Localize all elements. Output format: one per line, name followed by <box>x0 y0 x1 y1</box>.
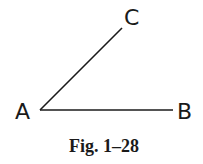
angle-diagram: A B C Fig. 1–28 <box>0 0 203 164</box>
figure-caption: Fig. 1–28 <box>69 136 139 156</box>
ray-ac <box>40 28 122 110</box>
point-label-b: B <box>177 99 192 124</box>
point-label-c: C <box>124 5 139 30</box>
point-label-a: A <box>15 99 30 124</box>
